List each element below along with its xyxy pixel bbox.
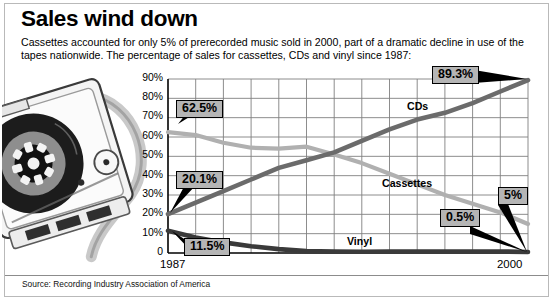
x-axis-start-year: 1987 bbox=[160, 258, 185, 270]
y-tick-90: 90% bbox=[130, 72, 163, 83]
callout-vinyl-end: 0.5% bbox=[440, 209, 480, 227]
y-tick-60: 60% bbox=[130, 130, 163, 141]
callout-cassettes-start: 62.5% bbox=[176, 100, 223, 118]
y-tick-30: 30% bbox=[130, 188, 163, 199]
source-credit: Source: Recording Industry Association o… bbox=[22, 279, 210, 289]
y-tick-70: 70% bbox=[130, 110, 163, 121]
callout-cassettes-end: 5% bbox=[498, 187, 528, 205]
y-tick-20: 20% bbox=[130, 207, 163, 218]
source-divider bbox=[5, 275, 548, 276]
infographic-root: Sales wind down Cassettes accounted for … bbox=[0, 0, 553, 301]
y-tick-40: 40% bbox=[130, 169, 163, 180]
series-label-vinyl: Vinyl bbox=[347, 235, 372, 247]
callout-cds-end: 89.3% bbox=[432, 66, 479, 84]
series-label-cds: CDs bbox=[407, 100, 428, 112]
y-tick-80: 80% bbox=[130, 91, 163, 102]
y-tick-10: 10% bbox=[130, 227, 163, 238]
callout-vinyl-start: 11.5% bbox=[184, 238, 230, 256]
page-title: Sales wind down bbox=[21, 8, 198, 31]
series-label-cassettes: Cassettes bbox=[382, 177, 432, 189]
deck-text: Cassettes accounted for only 5% of prere… bbox=[21, 36, 531, 61]
x-axis-end-year: 2000 bbox=[497, 258, 522, 270]
y-tick-0: 0 bbox=[130, 246, 163, 257]
y-tick-50: 50% bbox=[130, 149, 163, 160]
callout-cds-start: 20.1% bbox=[176, 171, 223, 189]
